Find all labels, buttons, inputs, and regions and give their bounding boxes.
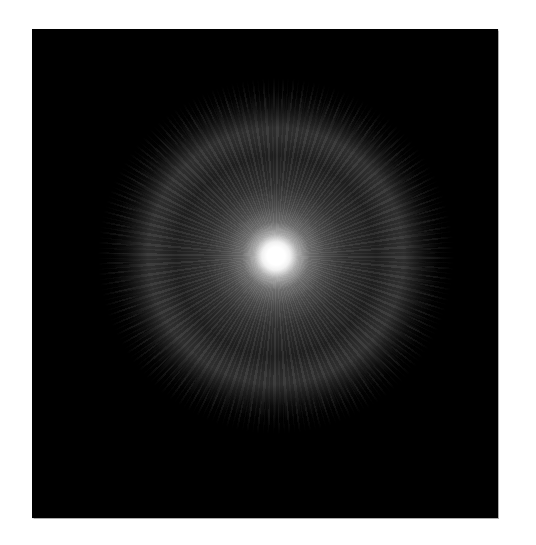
bright-core	[32, 29, 498, 518]
image-frame	[32, 29, 498, 518]
